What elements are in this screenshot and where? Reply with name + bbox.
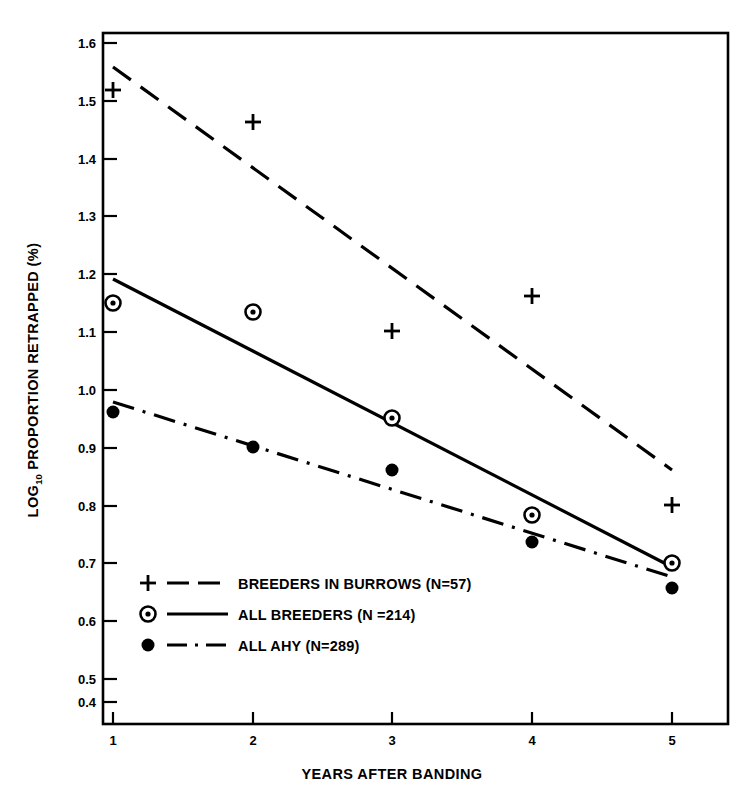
y-tick-label: 0.7 [78, 556, 96, 571]
y-tick-label: 1.6 [78, 36, 96, 51]
retrap-scatter-chart: 1.6 1.5 1.4 1.3 1.2 1.1 1.0 0.9 0.8 0.7 … [0, 0, 754, 801]
y-tick-label: 0.4 [78, 695, 97, 710]
y-axis-title-post: PROPORTION RETRAPPED (%) [25, 243, 41, 475]
x-tick-label: 1 [109, 733, 116, 748]
y-axis-title-pre: LOG [25, 485, 41, 518]
chart-background [0, 0, 754, 801]
y-tick-label: 0.5 [78, 672, 96, 687]
x-tick-label: 5 [668, 733, 675, 748]
data-point-circle-dot [525, 508, 540, 523]
data-point-circle-dot [106, 296, 121, 311]
legend-marker-filled-dot [142, 639, 155, 652]
y-tick-label: 0.9 [78, 441, 96, 456]
x-axis-title: YEARS AFTER BANDING [301, 766, 482, 782]
y-tick-label: 1.2 [78, 267, 96, 282]
data-point-filled-dot [526, 536, 539, 549]
legend-label-breeders-in-burrows: BREEDERS IN BURROWS (N=57) [238, 576, 472, 592]
data-point-filled-dot [107, 406, 120, 419]
data-point-filled-dot [386, 464, 399, 477]
data-point-filled-dot [666, 582, 679, 595]
y-tick-label: 1.0 [78, 383, 96, 398]
y-axis-title-subscript: 10 [33, 474, 44, 485]
legend-label-all-ahy: ALL AHY (N=289) [238, 638, 360, 654]
y-tick-label: 1.5 [78, 94, 96, 109]
data-point-circle-dot [385, 411, 400, 426]
data-point-filled-dot [247, 441, 260, 454]
x-tick-label: 4 [528, 733, 536, 748]
legend-marker-circle-dot [141, 607, 156, 622]
y-tick-label: 0.8 [78, 499, 96, 514]
y-tick-label: 1.3 [78, 209, 96, 224]
chart-figure: 1.6 1.5 1.4 1.3 1.2 1.1 1.0 0.9 0.8 0.7 … [0, 0, 754, 801]
data-point-circle-dot [246, 305, 261, 320]
x-tick-label: 2 [249, 733, 256, 748]
y-tick-label: 1.4 [78, 152, 97, 167]
x-tick-label: 3 [388, 733, 395, 748]
legend-label-all-breeders: ALL BREEDERS (N =214) [238, 607, 416, 623]
y-tick-label: 0.6 [78, 614, 96, 629]
data-point-circle-dot [665, 556, 680, 571]
y-tick-label: 1.1 [78, 325, 96, 340]
